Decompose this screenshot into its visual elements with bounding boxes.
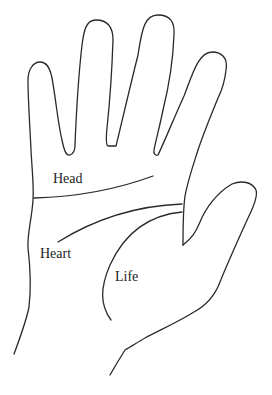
heart-line — [58, 204, 182, 242]
life-line-label: Life — [115, 270, 138, 284]
hand-outline — [14, 15, 226, 354]
hand-drawing — [0, 0, 272, 395]
palm-diagram: Head Heart Life — [0, 0, 272, 395]
life-line — [103, 212, 182, 320]
heart-line-label: Heart — [40, 247, 71, 261]
head-line-label: Head — [53, 172, 83, 186]
head-line — [34, 176, 153, 198]
